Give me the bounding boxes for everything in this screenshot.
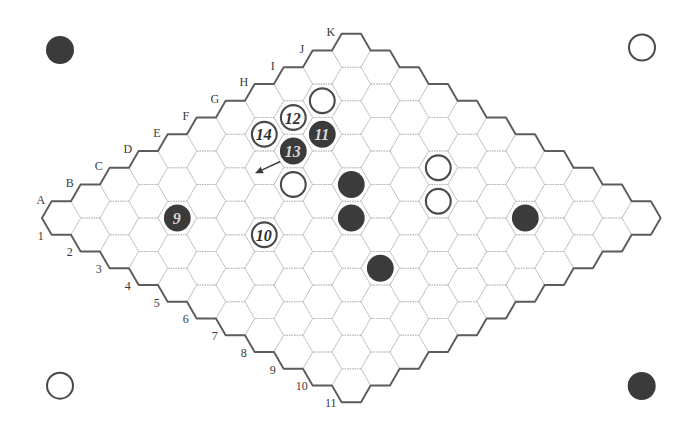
black-stone-disc — [367, 255, 394, 282]
hex-cell — [361, 84, 400, 118]
hex-cell — [448, 235, 487, 269]
row-label: 10 — [296, 379, 308, 393]
hex-board: ABCDEFGHIJK1234567891011 91011121314 — [0, 0, 694, 432]
arrow-shaft — [262, 162, 280, 170]
hex-cell — [245, 185, 284, 219]
column-label: E — [153, 126, 160, 140]
black-stone — [512, 205, 539, 232]
row-label: 8 — [241, 346, 247, 360]
hex-cell — [419, 285, 458, 319]
row-label: 7 — [212, 329, 218, 343]
row-label: 9 — [270, 363, 276, 377]
hex-cell — [477, 218, 516, 252]
hex-cell — [390, 302, 429, 336]
move-number: 11 — [314, 126, 329, 143]
column-label: C — [95, 159, 103, 173]
hex-cell — [390, 101, 429, 135]
hex-cell — [477, 151, 516, 185]
hex-cell — [332, 134, 371, 168]
hex-cell — [216, 201, 255, 235]
move-arrow — [255, 162, 280, 174]
black-stone: 13 — [280, 138, 307, 165]
hex-cell — [419, 118, 458, 152]
hex-cell — [448, 268, 487, 302]
hex-cell — [390, 134, 429, 168]
hex-cell — [535, 218, 574, 252]
hex-cell — [390, 268, 429, 302]
black-stone — [338, 171, 365, 198]
hex-cell — [361, 185, 400, 219]
hex-cell — [216, 235, 255, 269]
column-label: H — [239, 75, 248, 89]
hex-cell — [187, 252, 226, 286]
hex-cell — [564, 201, 603, 235]
hex-cell — [100, 201, 139, 235]
hex-cell — [245, 285, 284, 319]
hex-cell — [506, 235, 545, 269]
move-number: 10 — [256, 227, 272, 244]
move-arrow-layer — [255, 162, 280, 174]
black-stone: 9 — [164, 205, 191, 232]
row-label: 1 — [38, 229, 44, 243]
hex-cell — [332, 235, 371, 269]
move-number: 14 — [256, 126, 272, 143]
white-stone — [310, 88, 335, 113]
hex-cell — [216, 168, 255, 202]
row-label: 3 — [96, 262, 102, 276]
hex-cell — [332, 101, 371, 135]
hex-cell — [448, 134, 487, 168]
hex-cell — [216, 268, 255, 302]
column-label: G — [210, 92, 219, 106]
hex-cell — [332, 67, 371, 101]
hex-cell — [361, 319, 400, 353]
move-number: 9 — [173, 210, 181, 227]
column-label: B — [66, 176, 74, 190]
row-label: 6 — [183, 312, 189, 326]
hex-cell — [419, 218, 458, 252]
hex-cell — [332, 302, 371, 336]
hex-cell — [361, 118, 400, 152]
hex-cell — [303, 252, 342, 286]
hex-cell — [129, 218, 168, 252]
hex-cell — [274, 302, 313, 336]
hex-board-figure: ABCDEFGHIJK1234567891011 91011121314 — [0, 0, 694, 432]
hex-cell — [274, 201, 313, 235]
black-stone — [338, 205, 365, 232]
black-stone: 11 — [309, 121, 336, 148]
column-label: A — [36, 193, 45, 207]
hex-cell — [390, 235, 429, 269]
white-stone-disc — [426, 189, 451, 214]
move-number: 13 — [285, 143, 301, 160]
black-stone-disc — [338, 171, 365, 198]
hex-cell — [390, 168, 429, 202]
row-label: 5 — [154, 296, 160, 310]
hex-cell — [187, 218, 226, 252]
hex-cell — [477, 252, 516, 286]
row-label: 4 — [125, 279, 131, 293]
hex-cell — [506, 168, 545, 202]
move-number: 12 — [285, 110, 301, 127]
row-label: 11 — [325, 396, 337, 410]
hex-cell — [361, 285, 400, 319]
hex-cell — [187, 151, 226, 185]
hex-cell — [448, 201, 487, 235]
hex-cell — [419, 252, 458, 286]
hex-cell — [245, 151, 284, 185]
corner-marker-top-right — [629, 35, 655, 61]
hex-cell — [390, 201, 429, 235]
column-label: J — [299, 42, 304, 56]
stones: 91011121314 — [164, 88, 539, 281]
hex-cell — [187, 185, 226, 219]
hex-cell — [303, 319, 342, 353]
column-label: D — [123, 142, 132, 156]
hex-cell — [274, 268, 313, 302]
hex-cell — [303, 151, 342, 185]
white-stone: 10 — [252, 222, 277, 247]
hex-cell — [245, 252, 284, 286]
white-stone — [281, 172, 306, 197]
column-label: K — [326, 25, 335, 39]
hex-cell — [332, 268, 371, 302]
black-stone-disc — [512, 205, 539, 232]
white-stone: 14 — [252, 122, 277, 147]
hex-cell — [216, 134, 255, 168]
